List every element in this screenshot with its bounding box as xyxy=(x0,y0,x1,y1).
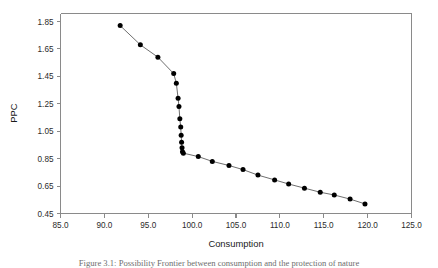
data-point xyxy=(177,116,182,121)
data-point xyxy=(318,190,323,195)
y-tick-label: 1.85 xyxy=(38,18,54,27)
data-point xyxy=(302,186,307,191)
data-point xyxy=(118,23,123,28)
x-tick-label: 95.0 xyxy=(140,221,156,230)
data-point xyxy=(176,96,181,101)
data-point xyxy=(179,140,184,145)
x-tick-label: 115.0 xyxy=(314,221,334,230)
y-tick-label: 1.05 xyxy=(38,127,54,136)
data-point xyxy=(332,192,337,197)
data-point xyxy=(226,163,231,168)
data-point xyxy=(196,154,201,159)
x-tick-label: 120.0 xyxy=(357,221,378,230)
x-tick-label: 100.0 xyxy=(182,221,203,230)
data-point xyxy=(210,159,215,164)
data-point xyxy=(255,173,260,178)
data-point xyxy=(176,104,181,109)
x-tick-label: 110.0 xyxy=(270,221,290,230)
data-point xyxy=(138,42,143,47)
data-point xyxy=(362,201,367,206)
y-axis-title: PPC xyxy=(8,103,19,123)
y-tick-label: 0.45 xyxy=(38,210,54,219)
data-point xyxy=(286,182,291,187)
data-point xyxy=(348,197,353,202)
x-tick-label: 85.0 xyxy=(53,221,69,230)
data-point xyxy=(155,55,160,60)
figure-caption: Figure 3.1: Possibility Frontier between… xyxy=(0,258,438,268)
x-tick-label: 90.0 xyxy=(96,221,112,230)
data-point xyxy=(178,125,183,130)
x-axis-title: Consumption xyxy=(208,238,263,249)
y-tick-label: 1.65 xyxy=(38,45,54,54)
y-tick-label: 0.85 xyxy=(38,155,54,164)
data-point xyxy=(179,133,184,138)
y-tick-label: 0.65 xyxy=(38,182,54,191)
y-tick-label: 1.45 xyxy=(38,72,54,81)
data-point xyxy=(174,81,179,86)
data-point xyxy=(241,167,246,172)
data-point xyxy=(272,177,277,182)
x-tick-label: 125.0 xyxy=(401,221,422,230)
y-tick-label: 1.25 xyxy=(38,100,54,109)
x-tick-label: 105.0 xyxy=(226,221,247,230)
data-point xyxy=(171,71,176,76)
data-point xyxy=(181,151,186,156)
